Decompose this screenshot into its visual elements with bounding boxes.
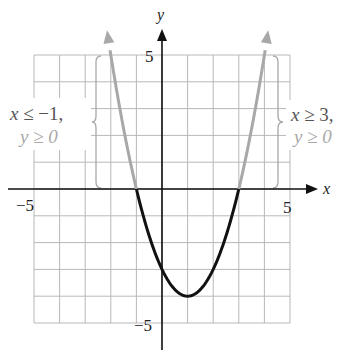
- right-annotation-line1: x ≥ 3,: [290, 104, 334, 125]
- x-axis-arrow-icon: [306, 184, 318, 194]
- y-tick-min: −5: [134, 316, 152, 335]
- curve-left-branch: [110, 50, 136, 189]
- left-annotation-line1: x ≤ −1,: [9, 103, 63, 124]
- parabola-graph: y x 5 −5 −5 5 x ≤ −1, y ≥ 0 x ≥ 3, y ≥ 0: [0, 0, 355, 357]
- x-tick-min: −5: [16, 196, 34, 215]
- left-branch-arrow-icon: [104, 30, 115, 44]
- right-branch-arrow-icon: [261, 30, 272, 44]
- left-brace: [92, 56, 101, 188]
- x-tick-max: 5: [283, 198, 292, 217]
- y-axis-arrow-icon: [157, 29, 167, 41]
- right-brace: [273, 56, 283, 188]
- x-axis-label: x: [322, 180, 330, 197]
- y-tick-max: 5: [145, 47, 154, 66]
- curve-right-branch: [239, 50, 265, 189]
- y-axis-label: y: [155, 6, 165, 24]
- left-annotation-line2: y ≥ 0: [18, 126, 58, 147]
- right-annotation-line2: y ≥ 0: [292, 126, 332, 147]
